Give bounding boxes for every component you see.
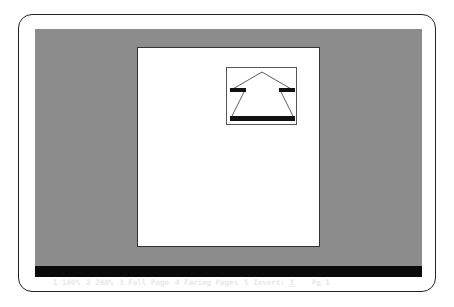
zoom-200-option[interactable]: 2 200%: [86, 277, 113, 288]
facing-pages-option[interactable]: 4 Facing Pages: [175, 277, 238, 288]
invert-value-input[interactable]: 3: [289, 277, 294, 288]
invert-option[interactable]: 5 Invert: 3: [244, 277, 294, 288]
up-arrow-icon: [226, 67, 297, 125]
page-preview: [137, 47, 320, 247]
page-indicator: Pg 1: [312, 277, 330, 288]
zoom-100-option[interactable]: 1 100%: [53, 277, 80, 288]
full-page-option[interactable]: 3 Full Page: [119, 277, 169, 288]
function-key-bar: 1 100%2 200%3 Full Page4 Facing Pages5 I…: [35, 266, 422, 277]
print-preview-screen: 1 100%2 200%3 Full Page4 Facing Pages5 I…: [35, 29, 422, 277]
